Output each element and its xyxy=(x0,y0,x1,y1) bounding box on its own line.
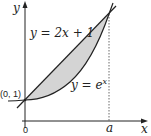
y-axis-label: y xyxy=(12,1,20,15)
point-label: (0, 1) xyxy=(0,89,21,99)
y-axis-arrow-icon xyxy=(23,1,28,8)
line-curve-label: y = 2x + 1 xyxy=(29,26,94,40)
exponential-curve-label: y = ex xyxy=(70,77,108,92)
graph-diagram: y x 0 a (0, 1) y = 2x + 1 y = ex xyxy=(0,0,151,136)
origin-label: 0 xyxy=(23,125,28,135)
intercept-point xyxy=(24,99,27,102)
line-curve xyxy=(17,6,116,108)
x-axis-label: x xyxy=(141,122,148,136)
a-label: a xyxy=(106,121,113,135)
exponential-label-sup: x xyxy=(103,77,108,86)
exponential-label-base: y = e xyxy=(70,78,103,92)
